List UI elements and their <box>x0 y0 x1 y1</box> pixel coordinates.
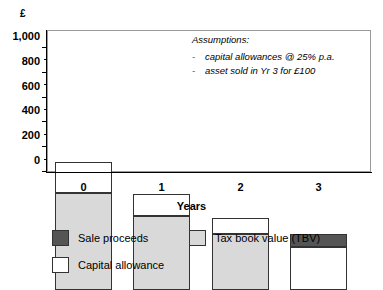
y-tick-800 <box>42 72 46 73</box>
x-tick-label-0: 0 <box>80 181 86 193</box>
x-tick-label-3: 3 <box>315 181 321 193</box>
legend-swatch-sale-proceeds-icon <box>52 230 69 246</box>
chart-root: £ 0 200 400 600 800 1,000 <box>0 0 383 290</box>
y-tick-minor-300 <box>44 134 46 135</box>
y-tick-label-200: 200 <box>22 129 40 141</box>
legend-item-capital-allowance[interactable]: Capital allowance <box>52 257 164 273</box>
y-tick-label-400: 400 <box>22 104 40 116</box>
legend-item-tax-book-value[interactable]: Tax book value (TBV) <box>189 230 320 246</box>
y-tick-label-600: 600 <box>22 80 40 92</box>
y-tick-1000 <box>42 47 46 48</box>
y-tick-400 <box>42 121 46 122</box>
x-tick-label-2: 2 <box>237 181 243 193</box>
assumptions-list: - capital allowances @ 25% p.a. - asset … <box>192 50 368 79</box>
y-tick-minor-100 <box>44 159 46 160</box>
chart-legend: Sale proceeds Tax book value (TBV) Capit… <box>0 225 383 285</box>
assumptions-item-2: - asset sold in Yr 3 for £100 <box>192 64 368 79</box>
y-tick-label-800: 800 <box>22 55 40 67</box>
bullet-dash-icon: - <box>192 64 195 79</box>
legend-label-tax-book-value: Tax book value (TBV) <box>215 232 320 244</box>
y-tick-label-1000: 1,000 <box>12 30 40 42</box>
legend-swatch-capital-allowance-icon <box>52 257 69 273</box>
assumptions-item-2-text: asset sold in Yr 3 for £100 <box>205 65 315 76</box>
y-axis: 0 200 400 600 800 1,000 <box>46 30 47 172</box>
x-axis-title: Years <box>0 200 383 212</box>
y-tick-600 <box>42 97 46 98</box>
assumptions-item-1-text: capital allowances @ 25% p.a. <box>205 51 335 62</box>
y-tick-200 <box>42 146 46 147</box>
x-tick-label-1: 1 <box>158 181 164 193</box>
legend-label-capital-allowance: Capital allowance <box>78 259 164 271</box>
y-tick-minor-500 <box>44 109 46 110</box>
y-tick-minor-700 <box>44 84 46 85</box>
legend-swatch-tax-book-value-icon <box>189 230 206 246</box>
y-tick-minor-900 <box>44 59 46 60</box>
assumptions-heading: Assumptions: <box>192 33 368 48</box>
y-axis-unit-label: £ <box>20 8 26 19</box>
y-tick-label-0: 0 <box>34 154 40 166</box>
assumptions-annotation: Assumptions: - capital allowances @ 25% … <box>192 33 368 79</box>
legend-label-sale-proceeds: Sale proceeds <box>78 232 148 244</box>
assumptions-item-1: - capital allowances @ 25% p.a. <box>192 50 368 65</box>
legend-item-sale-proceeds[interactable]: Sale proceeds <box>52 230 148 246</box>
bullet-dash-icon: - <box>192 50 195 65</box>
x-axis <box>46 172 372 173</box>
